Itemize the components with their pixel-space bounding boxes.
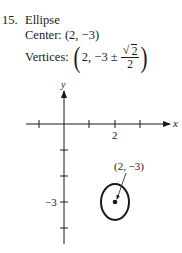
y-tick-label-neg3: −3: [45, 196, 57, 208]
x-tick-label-2: 2: [112, 129, 118, 141]
annotation-arrow: [117, 173, 126, 199]
center-point: [113, 200, 118, 205]
center-point-label: (2, −3): [114, 160, 144, 173]
x-axis-label: x: [172, 117, 178, 129]
y-axis-label: y: [60, 79, 66, 90]
ellipse-graph: x y 2 −3 (2, −3): [0, 0, 182, 253]
